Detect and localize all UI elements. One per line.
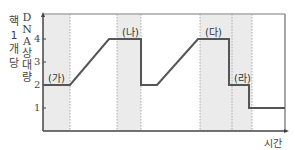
ylabel-char: 당 (8, 58, 20, 70)
ylabel-char: 개 (8, 44, 20, 56)
region-label-na: (나) (122, 24, 139, 39)
y-tick-2: 2 (34, 79, 40, 90)
x-axis-label: 시간 (264, 135, 282, 150)
ylabel-char: 1 (8, 30, 20, 42)
region-label-ra: (라) (234, 70, 251, 85)
y-axis-label-col1: 핵 1 개 당 (8, 16, 20, 70)
region-label-da: (다) (205, 24, 222, 39)
x-axis-arrow (284, 129, 289, 133)
ylabel-char: 량 (21, 72, 33, 84)
y-tick-4: 4 (34, 33, 40, 44)
y-axis-label-col2: D N A 상 대 량 (21, 12, 33, 84)
y-tick-1: 1 (34, 102, 40, 113)
y-tick-3: 3 (34, 56, 40, 67)
ylabel-char: 핵 (8, 16, 20, 28)
region-label-ga: (가) (48, 70, 65, 85)
